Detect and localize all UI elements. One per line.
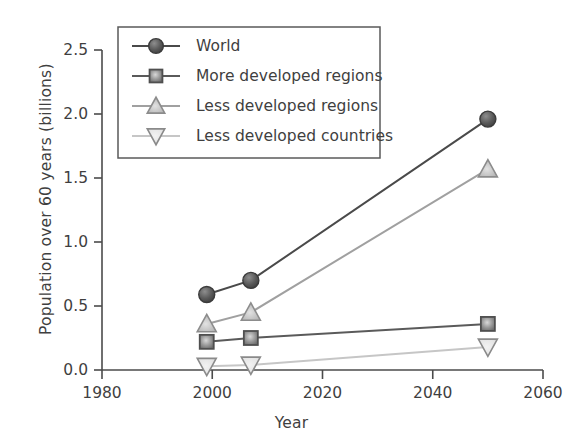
data-point-circle <box>480 111 496 127</box>
data-point-square <box>200 335 214 349</box>
data-point-square <box>244 331 258 345</box>
series-more-developed-regions <box>200 317 495 349</box>
data-point-circle <box>149 39 164 54</box>
y-tick-label: 0.0 <box>30 361 88 379</box>
x-tick-label: 2040 <box>413 384 452 402</box>
legend-item-world: World <box>196 37 240 55</box>
y-tick-label: 2.0 <box>30 105 88 123</box>
data-point-circle <box>243 272 259 288</box>
y-tick-label: 2.5 <box>30 41 88 59</box>
x-tick-label: 1980 <box>82 384 121 402</box>
data-point-square <box>481 317 495 331</box>
x-axis-label: Year <box>0 414 583 432</box>
chart-figure: Population over 60 years (billions) Year… <box>0 0 583 448</box>
x-tick-label: 2060 <box>523 384 562 402</box>
data-point-square <box>150 70 163 83</box>
x-tick-label: 2000 <box>193 384 232 402</box>
legend-item-less-developed-countries: Less developed countries <box>196 127 393 145</box>
y-tick-label: 1.5 <box>30 169 88 187</box>
x-tick-label: 2020 <box>303 384 342 402</box>
y-tick-label: 1.0 <box>30 233 88 251</box>
data-point-triangle-up <box>478 160 497 177</box>
y-tick-label: 0.5 <box>30 297 88 315</box>
legend-item-more-developed-regions: More developed regions <box>196 67 382 85</box>
series-less-developed-regions <box>197 160 497 332</box>
data-point-circle <box>199 286 215 302</box>
legend-item-less-developed-regions: Less developed regions <box>196 97 378 115</box>
data-point-triangle-down <box>197 358 216 375</box>
data-point-triangle-up <box>241 303 260 320</box>
